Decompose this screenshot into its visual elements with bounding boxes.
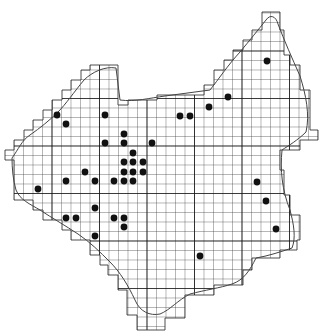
occurrence-dot — [187, 113, 194, 120]
occurrence-dot — [92, 205, 99, 212]
occurrence-dot — [63, 121, 70, 128]
occurrence-dot — [121, 140, 128, 147]
occurrence-dot — [263, 198, 270, 205]
occurrence-dot — [63, 215, 70, 222]
occurrence-dot — [92, 233, 99, 240]
occurrence-dot — [102, 140, 109, 147]
occurrence-dot — [121, 169, 128, 176]
occurrence-dot — [111, 178, 118, 185]
occurrence-dot — [111, 215, 118, 222]
occurrence-dot — [73, 215, 80, 222]
occurrence-dot — [121, 159, 128, 166]
occurrence-dot — [206, 104, 213, 111]
occurrence-dot — [140, 169, 147, 176]
occurrence-dot — [82, 169, 89, 176]
occurrence-dot — [121, 178, 128, 185]
occurrence-dot — [54, 112, 61, 119]
occurrence-dot — [130, 178, 137, 185]
occurrence-dot — [140, 159, 147, 166]
occurrence-dot — [264, 58, 271, 65]
occurrence-dot — [273, 226, 280, 233]
occurrence-dot — [92, 178, 99, 185]
occurrence-dot — [197, 253, 204, 260]
occurrence-dot — [130, 150, 137, 157]
occurrence-dot — [102, 112, 109, 119]
occurrence-dot — [35, 186, 42, 193]
occurrence-dot — [121, 215, 128, 222]
occurrence-dot — [130, 159, 137, 166]
occurrence-dot — [130, 169, 137, 176]
occurrence-dot — [121, 224, 128, 231]
occurrence-dot — [121, 131, 128, 138]
grid — [0, 0, 322, 333]
occurrence-dot — [225, 94, 232, 101]
occurrence-dot — [149, 140, 156, 147]
distribution-map — [0, 0, 322, 333]
occurrence-dot — [63, 178, 70, 185]
occurrence-dot — [177, 113, 184, 120]
occurrence-dot — [254, 179, 261, 186]
